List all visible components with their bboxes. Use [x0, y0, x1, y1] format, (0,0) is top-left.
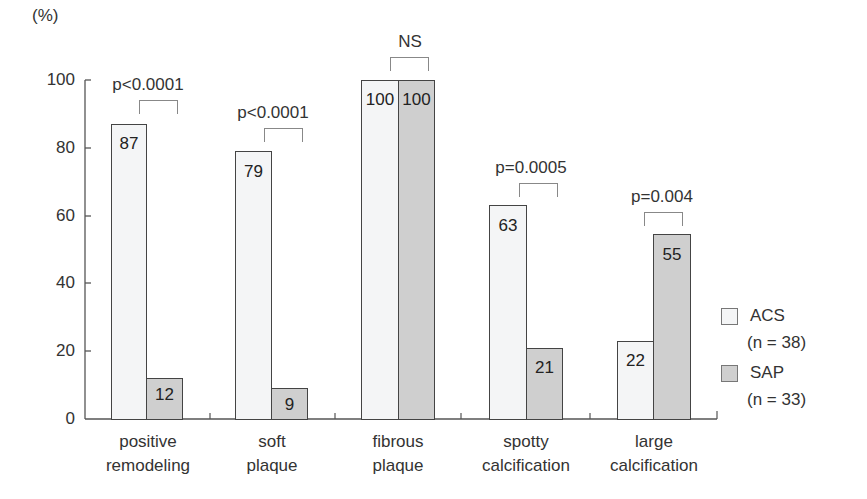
p-value-large-calcification: p=0.004: [609, 187, 715, 207]
value-sap-large-calcification: 55: [653, 245, 691, 265]
x-label-positive-remodeling: positive remodeling: [88, 430, 208, 478]
bar-chart: (%) 100 80 60 40 20 0 87 12 p<0.0001 79 …: [0, 0, 867, 499]
x-label-line: positive: [88, 430, 208, 454]
value-acs-soft-plaque: 79: [235, 162, 272, 182]
x-label-line: plaque: [338, 454, 458, 478]
value-acs-fibrous-plaque: 100: [361, 90, 399, 110]
significance-bracket-fibrous-plaque: [390, 57, 429, 71]
x-label-large-calcification: large calcification: [591, 430, 717, 478]
bar-acs-soft-plaque: [235, 151, 272, 420]
p-value-positive-remodeling: p<0.0001: [96, 75, 200, 95]
x-label-line: large: [591, 430, 717, 454]
y-tick-80: 80: [56, 138, 75, 158]
value-sap-spotty-calcification: 21: [526, 358, 563, 378]
y-tick-100: 100: [47, 70, 75, 90]
y-tick-20: 20: [56, 341, 75, 361]
x-label-line: plaque: [212, 454, 332, 478]
x-label-line: soft: [212, 430, 332, 454]
significance-bracket-large-calcification: [644, 212, 683, 226]
bar-acs-spotty-calcification: [489, 205, 527, 420]
x-label-line: calcification: [463, 454, 589, 478]
bar-sap-fibrous-plaque: [398, 80, 435, 420]
x-label-fibrous-plaque: fibrous plaque: [338, 430, 458, 478]
value-acs-large-calcification: 22: [617, 351, 654, 371]
value-acs-spotty-calcification: 63: [489, 216, 527, 236]
value-acs-positive-remodeling: 87: [111, 134, 147, 154]
p-value-spotty-calcification: p=0.0005: [478, 158, 584, 178]
legend-label-acs: ACS: [750, 306, 785, 326]
x-label-line: fibrous: [338, 430, 458, 454]
bar-acs-fibrous-plaque: [361, 80, 399, 420]
x-label-line: calcification: [591, 454, 717, 478]
p-value-soft-plaque: p<0.0001: [221, 103, 325, 123]
value-sap-soft-plaque: 9: [271, 395, 308, 415]
y-tick-0: 0: [66, 409, 75, 429]
x-label-line: remodeling: [88, 454, 208, 478]
legend-n-acs: (n = 38): [747, 333, 806, 353]
x-label-line: spotty: [463, 430, 589, 454]
y-tick-40: 40: [56, 273, 75, 293]
significance-bracket-positive-remodeling: [139, 100, 178, 114]
value-sap-fibrous-plaque: 100: [398, 90, 435, 110]
legend-label-sap: SAP: [750, 363, 784, 383]
legend-n-sap: (n = 33): [747, 390, 806, 410]
significance-bracket-soft-plaque: [264, 128, 303, 142]
legend-swatch-sap: [721, 365, 738, 382]
value-sap-positive-remodeling: 12: [146, 385, 183, 405]
p-value-fibrous-plaque: NS: [375, 32, 445, 52]
significance-bracket-spotty-calcification: [519, 183, 558, 197]
x-label-soft-plaque: soft plaque: [212, 430, 332, 478]
bar-acs-positive-remodeling: [111, 124, 147, 420]
x-label-spotty-calcification: spotty calcification: [463, 430, 589, 478]
y-tick-60: 60: [56, 206, 75, 226]
legend-swatch-acs: [721, 308, 738, 325]
